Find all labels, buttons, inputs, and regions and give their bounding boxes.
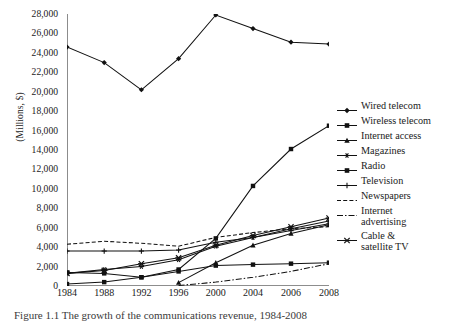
y-tick-label: 8,000 xyxy=(12,203,58,213)
plot-area xyxy=(67,14,329,286)
figure-caption: Figure 1.1 The growth of the communicati… xyxy=(14,309,444,322)
legend-item-label: Television xyxy=(358,175,403,186)
x-tick-label: 2008 xyxy=(307,287,351,298)
legend-item: Magazines xyxy=(336,145,457,158)
legend-item: Wired telecom xyxy=(336,100,457,113)
y-tick-label: 12,000 xyxy=(12,164,58,174)
x-marker-icon xyxy=(336,232,358,243)
legend-item: Newspapers xyxy=(336,190,457,203)
legend-item-label: Radio xyxy=(358,160,385,171)
legend-item-label: Magazines xyxy=(358,145,405,156)
series-canvas xyxy=(67,14,329,286)
y-tick-label: 2,000 xyxy=(12,262,58,272)
y-tick-label: 16,000 xyxy=(12,126,58,136)
legend-item-label: Newspapers xyxy=(358,190,411,201)
plus-icon xyxy=(336,177,358,188)
legend-item-label: Wireless telecom xyxy=(358,115,431,126)
dashdot-icon xyxy=(336,207,358,218)
dashed-icon xyxy=(336,192,358,203)
y-tick-label: 24,000 xyxy=(12,48,58,58)
legend: Wired telecomWireless telecomInternet ac… xyxy=(336,100,457,255)
square-icon xyxy=(336,117,358,128)
triangle-icon xyxy=(336,132,358,143)
legend-item-label: Cable & satellite TV xyxy=(358,230,409,253)
chart-figure: (Millions, $) 02,0004,0006,0008,00010,00… xyxy=(0,0,457,322)
legend-item: Radio xyxy=(336,160,457,173)
y-tick-label: 20,000 xyxy=(12,87,58,97)
y-tick-label: 14,000 xyxy=(12,145,58,155)
legend-item-label: Internet access xyxy=(358,130,421,141)
diamond-icon xyxy=(336,102,358,113)
filled-square-icon xyxy=(336,162,358,173)
legend-item: Cable & satellite TV xyxy=(336,230,457,253)
y-tick-label: 18,000 xyxy=(12,106,58,116)
asterisk-icon xyxy=(336,147,358,158)
y-tick-label: 26,000 xyxy=(12,28,58,38)
series-internet-access xyxy=(176,222,329,285)
series-wired-telecom xyxy=(67,14,329,92)
series-internet-advertising xyxy=(179,264,329,286)
legend-item: Wireless telecom xyxy=(336,115,457,128)
legend-item: Internet advertising xyxy=(336,205,457,228)
legend-item-label: Internet advertising xyxy=(358,205,406,228)
y-tick-label: 10,000 xyxy=(12,184,58,194)
legend-item: Television xyxy=(336,175,457,188)
legend-item: Internet access xyxy=(336,130,457,143)
y-tick-label: 6,000 xyxy=(12,223,58,233)
y-tick-label: 22,000 xyxy=(12,67,58,77)
y-tick-label: 28,000 xyxy=(12,9,58,19)
legend-item-label: Wired telecom xyxy=(358,100,421,111)
y-axis-tick-labels: 02,0004,0006,0008,00010,00012,00014,0001… xyxy=(0,0,58,322)
series-newspapers xyxy=(67,227,329,247)
y-tick-label: 4,000 xyxy=(12,242,58,252)
